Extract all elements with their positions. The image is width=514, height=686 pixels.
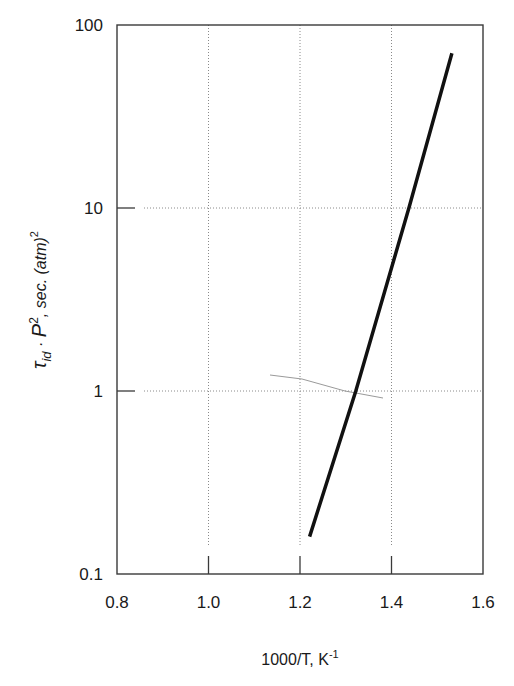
- y-tick-label: 0.1: [79, 565, 103, 584]
- chart: 0.81.01.21.41.6 0.1110100 1000/T, K-1 τi…: [0, 0, 514, 686]
- x-tick-label: 0.8: [105, 593, 129, 612]
- scan-artifact-line: [270, 375, 383, 398]
- y-tick-label: 1: [94, 382, 103, 401]
- plot-area-frame: [117, 25, 483, 574]
- series-line: [310, 53, 452, 536]
- x-tick-label: 1.6: [471, 593, 495, 612]
- y-tick-label: 100: [75, 16, 103, 35]
- x-tick-label: 1.4: [380, 593, 404, 612]
- y-tick-label: 10: [84, 199, 103, 218]
- y-tick-labels: 0.1110100: [75, 16, 103, 584]
- data-series: [310, 53, 452, 536]
- x-tick-labels: 0.81.01.21.41.6: [105, 593, 495, 612]
- axis-ticks: [117, 208, 392, 574]
- x-axis-title: 1000/T, K-1: [261, 648, 338, 668]
- x-tick-label: 1.2: [288, 593, 312, 612]
- y-axis-title: τid · P2, sec. (atm)2: [27, 231, 54, 369]
- grid-lines: [144, 25, 483, 546]
- x-tick-label: 1.0: [197, 593, 221, 612]
